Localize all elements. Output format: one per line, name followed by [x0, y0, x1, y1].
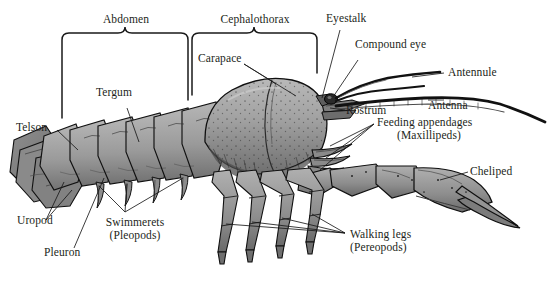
label-swimmerets-line1: Swimmerets [106, 216, 165, 228]
label-feeding-line1: Feeding appendages [377, 116, 472, 128]
label-swimmerets-line2: (Pleopods) [92, 229, 178, 242]
leader-swimmeret-1 [99, 186, 125, 212]
label-telson: Telson [16, 121, 47, 134]
crayfish-illustration [0, 0, 550, 285]
leader-feeding-2 [326, 124, 374, 158]
leader-walking-2 [252, 222, 345, 233]
abdomen-segments [40, 102, 228, 190]
label-antennule: Antennule [448, 66, 497, 79]
walking-legs [212, 168, 324, 264]
label-walking-legs: Walking legs (Pereopods) [350, 228, 428, 253]
label-feeding-line2: (Maxillipeds) [377, 129, 481, 142]
crayfish-anatomy-figure: Abdomen Cephalothorax Carapace Tergum Te… [0, 0, 550, 285]
label-abdomen: Abdomen [96, 13, 156, 26]
label-feeding-appendages: Feeding appendages (Maxillipeds) [377, 116, 487, 141]
label-rostrum: Rostrum [346, 104, 386, 117]
leader-eyestalk [322, 30, 340, 98]
label-cheliped: Cheliped [470, 165, 512, 178]
label-tergum: Tergum [96, 86, 132, 99]
label-pleuron: Pleuron [44, 246, 80, 259]
bracket-abdomen [62, 27, 188, 118]
label-cephalothorax: Cephalothorax [214, 13, 296, 26]
label-compound-eye: Compound eye [355, 38, 426, 51]
label-antenna: Antenna [428, 99, 468, 112]
label-swimmerets: Swimmerets (Pleopods) [92, 216, 178, 241]
label-eyestalk: Eyestalk [326, 12, 366, 25]
leader-feeding-3 [320, 124, 374, 170]
label-walking-line2: (Pereopods) [350, 241, 428, 254]
label-uropod: Uropod [17, 214, 53, 227]
label-carapace: Carapace [198, 52, 242, 65]
label-walking-line1: Walking legs [350, 228, 411, 240]
